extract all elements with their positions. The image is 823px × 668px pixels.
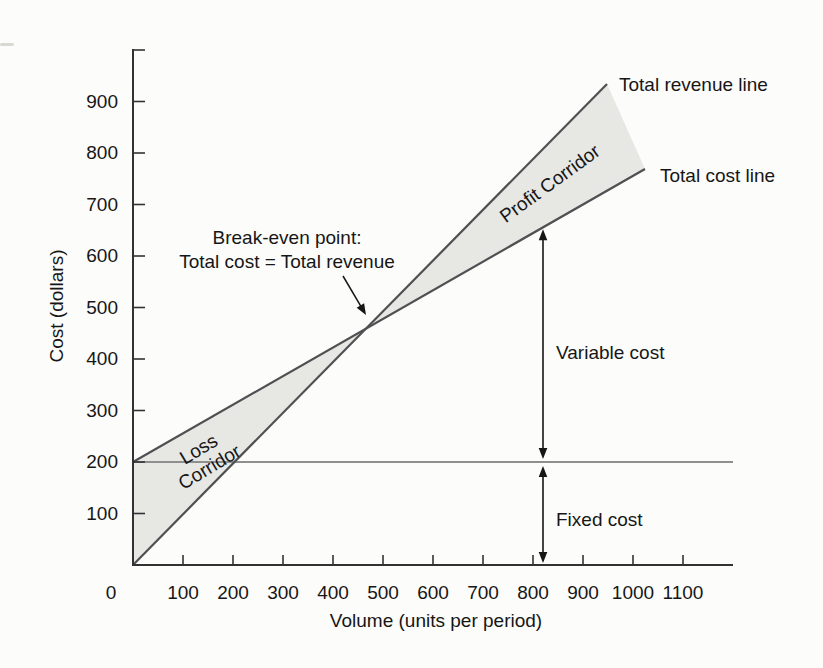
total-revenue-line [133,84,607,565]
x-tick-label: 1100 [653,582,713,604]
break-even-arrow-head [357,303,366,315]
y-tick-label: 700 [46,194,118,216]
y-tick-label: 400 [46,348,118,370]
variable-cost-measure-head-top [539,229,548,240]
variable-cost-label: Variable cost [556,342,664,364]
fixed-cost-measure-head-top [539,466,548,477]
total-cost-line [133,169,645,462]
y-tick-label: 100 [46,503,118,525]
y-tick-label: 500 [46,297,118,319]
total-cost-line-label: Total cost line [660,165,775,187]
scan-artifact [0,43,14,46]
fixed-cost-measure-head-bottom [539,552,548,563]
total-revenue-line-label: Total revenue line [619,74,768,96]
y-tick-label: 800 [46,142,118,164]
y-tick-label: 200 [46,451,118,473]
variable-cost-measure-head-bottom [539,448,548,459]
break-even-annotation-line1: Break-even point: [134,226,440,250]
break-even-arrow-shaft [343,276,362,308]
y-tick-label: 900 [46,91,118,113]
breakeven-figure: Total revenue line Total cost line Break… [0,0,823,668]
fixed-cost-label: Fixed cost [556,509,643,531]
x-tick-label: 0 [81,582,141,604]
break-even-annotation-line2: Total cost = Total revenue [134,250,440,274]
chart-canvas [0,0,823,668]
break-even-annotation: Break-even point: Total cost = Total rev… [134,226,440,273]
y-tick-label: 600 [46,245,118,267]
x-axis-title: Volume (units per period) [285,610,587,632]
y-tick-label: 300 [46,400,118,422]
